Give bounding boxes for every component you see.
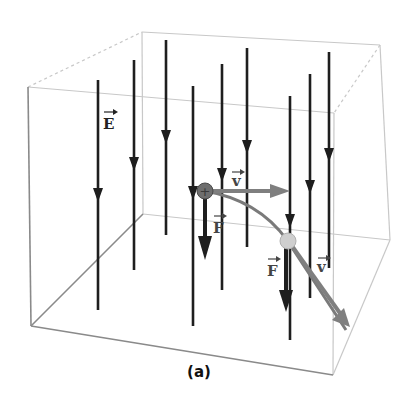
field-arrow-icon [188, 186, 198, 200]
charged-particle-initial: + [197, 183, 213, 199]
label-force-initial: F [213, 213, 227, 237]
field-arrow-icon [242, 140, 252, 154]
svg-text:F: F [267, 262, 278, 280]
field-arrow-icon [305, 180, 315, 194]
label-field: E [103, 109, 118, 133]
svg-text:F: F [213, 219, 224, 237]
svg-text:v: v [316, 258, 327, 276]
electric-field-diagram: + E v F F v (a) [0, 0, 399, 397]
label-velocity-initial: v [231, 169, 245, 190]
force-vector-initial [198, 196, 212, 260]
field-arrow-icon [93, 188, 103, 202]
label-force-final: F [267, 256, 281, 280]
field-arrow-icon [285, 214, 295, 228]
box-front-edges [28, 87, 334, 375]
plus-sign-icon: + [200, 184, 211, 199]
charged-particle-final [280, 233, 296, 249]
field-arrow-icon [129, 157, 139, 171]
field-arrow-icon [217, 168, 227, 182]
field-arrow-icon [161, 130, 171, 144]
svg-text:v: v [231, 172, 242, 190]
field-arrow-icon [324, 148, 334, 162]
svg-text:E: E [103, 115, 114, 133]
box-back-edges [28, 32, 390, 375]
figure-caption: (a) [187, 363, 211, 381]
